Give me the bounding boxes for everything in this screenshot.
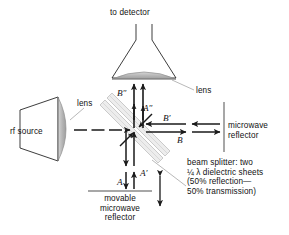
beam-arrow-diagonal-down-left <box>139 114 152 127</box>
top-lens-leader <box>172 80 194 90</box>
rf-source-label: rf source <box>10 127 43 137</box>
beam-splitter-caption-line4: 50% transmission) <box>187 187 288 197</box>
source-lens <box>58 97 66 161</box>
beam-splitter-caption-line2: ¼ λ dielectric sheets <box>187 168 288 178</box>
beam-splitter-caption-line3: (50% reflection— <box>187 177 288 187</box>
movable-reflector-label-line1: movable <box>88 194 152 204</box>
source-lens-label: lens <box>77 99 92 109</box>
beam-splitter-leader <box>152 160 186 186</box>
top-lens <box>112 72 176 79</box>
beam-label-A: A <box>117 177 123 187</box>
fixed-reflector-label: microwave reflector <box>228 121 268 140</box>
top-lens-label: lens <box>196 86 211 96</box>
movable-reflector-label: movable microwave reflector <box>88 194 152 223</box>
fixed-reflector-label-line1: microwave <box>228 121 268 131</box>
beam-label-B-double-prime: B″ <box>117 88 126 98</box>
beam-splitter-dielectric-sheets <box>100 93 170 163</box>
beam-label-A-prime: A′ <box>140 168 148 178</box>
beam-label-B: B <box>177 135 183 145</box>
beam-label-B-prime: B′ <box>163 113 171 123</box>
to-detector-label: to detector <box>110 8 150 18</box>
beam-splitter-caption: beam splitter: two ¼ λ dielectric sheets… <box>187 158 288 196</box>
beam-splitter-caption-line1: beam splitter: two <box>187 158 288 168</box>
interferometer-diagram: to detector lens lens rf source microwav… <box>0 0 289 235</box>
movable-reflector-label-line3: reflector <box>88 213 152 223</box>
source-lens-leader <box>70 108 84 120</box>
beam-label-A-double-prime: A″ <box>143 103 152 113</box>
movable-reflector-label-line2: microwave <box>88 204 152 214</box>
detector-horn <box>112 24 176 78</box>
fixed-reflector-label-line2: reflector <box>228 131 268 141</box>
